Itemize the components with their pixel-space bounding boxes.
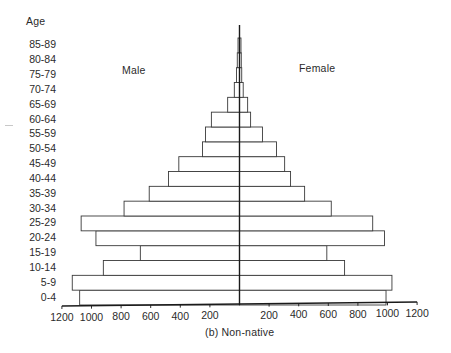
bar-female-40-44 (240, 172, 291, 187)
age-label: 5-9 (0, 276, 56, 288)
x-tick-label: 1200 (50, 311, 73, 323)
x-tick-label: 400 (290, 308, 308, 320)
scan-artifact-mark (5, 125, 13, 126)
bar-male-40-44 (168, 172, 239, 187)
x-tick-label: 1000 (376, 307, 399, 319)
bar-female-35-39 (240, 186, 305, 201)
bar-female-15-19 (240, 246, 327, 261)
bar-male-5-9 (72, 275, 239, 290)
age-label: 60-64 (0, 113, 56, 125)
bar-male-20-24 (96, 231, 240, 246)
age-axis-title: Age (26, 15, 45, 27)
x-tick-label: 600 (142, 310, 160, 322)
age-label: 70-74 (0, 83, 56, 95)
age-label: 85-89 (0, 38, 56, 50)
bar-female-45-49 (240, 157, 285, 172)
x-tick-label: 800 (349, 308, 367, 320)
male-label: Male (122, 64, 146, 76)
age-label: 65-69 (0, 98, 56, 110)
bar-male-60-64 (211, 112, 239, 127)
x-tick-label: 400 (172, 310, 190, 322)
bar-female-20-24 (240, 231, 385, 246)
age-label: 75-79 (0, 68, 56, 80)
bar-male-0-4 (80, 290, 240, 305)
age-label: 20-24 (0, 231, 56, 243)
age-label: 55-59 (0, 127, 56, 139)
bar-male-55-59 (205, 127, 239, 142)
bar-male-45-49 (179, 157, 240, 172)
age-label: 0-4 (0, 291, 56, 303)
bar-female-50-54 (240, 142, 277, 157)
bar-female-65-69 (240, 97, 248, 112)
bar-male-25-29 (81, 216, 239, 231)
bar-male-50-54 (203, 142, 240, 157)
x-tick-label: 800 (112, 310, 130, 322)
bar-male-65-69 (228, 97, 240, 112)
age-label: 10-14 (0, 261, 56, 273)
age-label: 40-44 (0, 172, 56, 184)
age-label: 15-19 (0, 246, 56, 258)
x-tick-label: 1200 (405, 307, 428, 319)
chart-canvas (0, 0, 451, 353)
age-label: 50-54 (0, 142, 56, 154)
age-label: 25-29 (0, 216, 56, 228)
bar-male-15-19 (140, 246, 239, 261)
x-tick-label: 600 (320, 308, 338, 320)
bar-female-30-34 (240, 201, 332, 216)
bar-female-60-64 (240, 112, 251, 127)
chart-caption: (b) Non-native (205, 326, 274, 338)
age-label: 80-84 (0, 53, 56, 65)
bar-male-35-39 (149, 186, 239, 201)
bar-male-30-34 (124, 201, 239, 216)
x-tick-label: 200 (260, 309, 278, 321)
bars-group (72, 38, 392, 305)
age-label: 45-49 (0, 157, 56, 169)
bar-female-10-14 (240, 261, 345, 276)
bar-female-25-29 (240, 216, 373, 231)
x-tick-label: 1000 (80, 311, 103, 323)
bar-female-5-9 (240, 275, 392, 290)
female-label: Female (299, 62, 335, 74)
bar-male-10-14 (103, 261, 239, 276)
bar-female-55-59 (240, 127, 263, 142)
age-label: 35-39 (0, 187, 56, 199)
bar-male-70-74 (234, 83, 239, 98)
age-label: 30-34 (0, 202, 56, 214)
x-tick-label: 200 (201, 309, 219, 321)
